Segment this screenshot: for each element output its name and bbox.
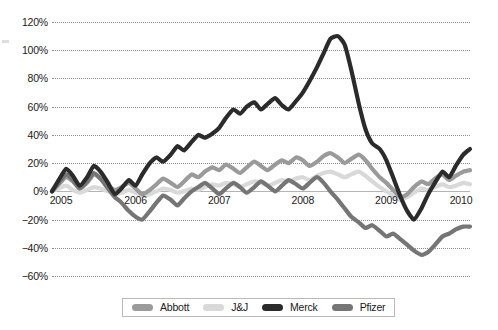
y-axis-tick-label: 60% (2, 101, 48, 112)
y-axis-tick-label: 120% (2, 17, 48, 28)
gridline (52, 276, 470, 277)
legend-label: Abbott (160, 302, 189, 313)
y-axis-tick-label: −20% (2, 214, 48, 225)
legend-label: Merck (290, 302, 318, 313)
legend-swatch-icon (262, 304, 283, 311)
y-axis-tick-label: −60% (2, 271, 48, 282)
legend-label: Pfizer (360, 302, 386, 313)
y-axis-tick-label: 20% (2, 158, 48, 169)
chart-legend: AbbottJ&JMerckPfizer (122, 298, 395, 317)
x-axis-tick-label: 2005 (50, 195, 73, 206)
legend-item-pfizer[interactable]: Pfizer (332, 302, 386, 313)
legend-item-abbott[interactable]: Abbott (132, 302, 189, 313)
series-line-abbott (52, 153, 470, 197)
x-axis-tick-label: 2006 (124, 195, 147, 206)
legend-swatch-icon (332, 304, 353, 311)
y-axis-tick-label: 0% (2, 186, 48, 197)
legend-item-merck[interactable]: Merck (262, 302, 318, 313)
x-axis-tick-label: 2007 (208, 195, 231, 206)
stock-performance-chart: 120%100%80%60%40%20%0%−20%−40%−60% 20052… (0, 0, 498, 330)
series-layer (52, 22, 470, 276)
y-axis: 120%100%80%60%40%20%0%−20%−40%−60% (0, 22, 48, 276)
y-axis-tick-label: −40% (2, 243, 48, 254)
legend-item-j-j[interactable]: J&J (203, 302, 248, 313)
y-axis-tick-label: 40% (2, 130, 48, 141)
legend-label: J&J (231, 302, 248, 313)
y-axis-tick-label: 80% (2, 73, 48, 84)
x-axis-tick-label: 2010 (450, 195, 473, 206)
x-axis-tick-label: 2009 (375, 195, 398, 206)
x-axis-tick-label: 2008 (292, 195, 315, 206)
x-axis: 200520062007200820092010 (52, 195, 470, 215)
y-axis-tick-label: 100% (2, 45, 48, 56)
legend-swatch-icon (203, 304, 224, 311)
legend-swatch-icon (132, 304, 153, 311)
